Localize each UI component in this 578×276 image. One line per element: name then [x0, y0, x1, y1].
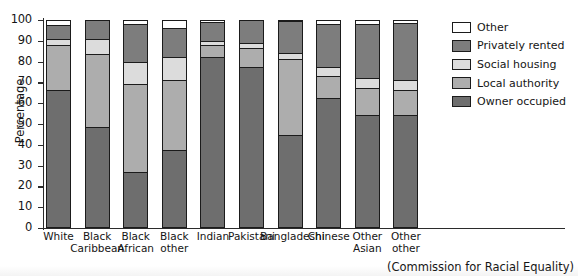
bar-segment-owner-occupied: [279, 136, 302, 227]
bar-segment-social-housing: [356, 79, 379, 89]
bar-segment-other: [163, 21, 186, 29]
legend-item-social-housing: Social housing: [452, 55, 578, 74]
bar-segment-privately-rented: [317, 25, 340, 68]
stacked-bar-chart: Percentage 0102030405060708090100 WhiteB…: [0, 0, 578, 276]
chart-legend: OtherPrivately rentedSocial housingLocal…: [452, 18, 578, 111]
legend-label: Other: [477, 21, 508, 34]
bar-segment-local-authority: [163, 81, 186, 151]
x-label-other-other: Otherother: [376, 231, 436, 254]
legend-swatch: [452, 40, 471, 52]
bar-black-caribbean: [85, 20, 110, 228]
bar-segment-owner-occupied: [47, 91, 70, 227]
bar-segment-local-authority: [394, 91, 417, 116]
bar-segment-local-authority: [124, 85, 147, 174]
legend-swatch: [452, 96, 471, 108]
bar-segment-privately-rented: [86, 21, 109, 40]
y-tick-label: 70: [4, 76, 32, 88]
legend-swatch: [452, 22, 471, 34]
bar-segment-privately-rented: [124, 25, 147, 63]
bar-segment-owner-occupied: [124, 173, 147, 227]
y-tick-label: 80: [4, 56, 32, 68]
bar-segment-social-housing: [394, 81, 417, 91]
bar-segment-owner-occupied: [201, 58, 224, 227]
legend-item-privately-rented: Privately rented: [452, 37, 578, 56]
bar-segment-owner-occupied: [356, 116, 379, 227]
bar-segment-local-authority: [240, 49, 263, 69]
bar-segment-privately-rented: [201, 23, 224, 42]
bar-segment-privately-rented: [279, 22, 302, 54]
bar-chinese: [316, 20, 341, 228]
legend-swatch: [452, 59, 471, 71]
bar-other-other: [393, 20, 418, 228]
legend-label: Social housing: [477, 58, 557, 71]
y-tick-mark: [38, 228, 44, 229]
bar-segment-social-housing: [124, 63, 147, 85]
bar-segment-privately-rented: [163, 29, 186, 58]
bar-black-other: [162, 20, 187, 228]
bar-segment-local-authority: [201, 46, 224, 58]
bar-segment-social-housing: [86, 40, 109, 55]
bar-segment-owner-occupied: [86, 128, 109, 227]
bar-black-african: [123, 20, 148, 228]
y-tick-label: 60: [4, 97, 32, 109]
bar-segment-owner-occupied: [317, 99, 340, 227]
bar-segment-owner-occupied: [240, 68, 263, 227]
bar-other-asian: [355, 20, 380, 228]
y-tick-label: 90: [4, 35, 32, 47]
bar-white: [46, 20, 71, 228]
bar-segment-privately-rented: [394, 24, 417, 81]
bar-segment-owner-occupied: [394, 116, 417, 227]
bar-indian: [200, 20, 225, 228]
bar-segment-local-authority: [317, 77, 340, 100]
bar-segment-local-authority: [279, 60, 302, 136]
bar-pakistani: [239, 20, 264, 228]
y-tick-label: 40: [4, 139, 32, 151]
bar-segment-local-authority: [47, 46, 70, 91]
legend-item-owner-occupied: Owner occupied: [452, 92, 578, 111]
legend-label: Privately rented: [477, 39, 565, 52]
y-tick-label: 30: [4, 160, 32, 172]
bar-segment-local-authority: [86, 55, 109, 128]
legend-item-other: Other: [452, 18, 578, 37]
legend-label: Local authority: [477, 77, 559, 90]
legend-label: Owner occupied: [477, 95, 566, 108]
bar-segment-privately-rented: [240, 21, 263, 44]
legend-item-local-authority: Local authority: [452, 74, 578, 93]
bar-bangladeshi: [278, 20, 303, 228]
legend-swatch: [452, 77, 471, 89]
y-tick-label: 50: [4, 118, 32, 130]
bar-segment-social-housing: [317, 68, 340, 76]
y-tick-label: 100: [4, 14, 32, 26]
y-tick-label: 20: [4, 180, 32, 192]
bar-segment-owner-occupied: [163, 151, 186, 227]
source-note: (Commission for Racial Equality): [387, 260, 574, 274]
bar-segment-privately-rented: [47, 26, 70, 39]
bar-segment-privately-rented: [356, 25, 379, 79]
bar-segment-social-housing: [163, 58, 186, 81]
plot-area: [44, 20, 430, 228]
y-tick-label: 10: [4, 201, 32, 213]
bar-segment-local-authority: [356, 89, 379, 116]
